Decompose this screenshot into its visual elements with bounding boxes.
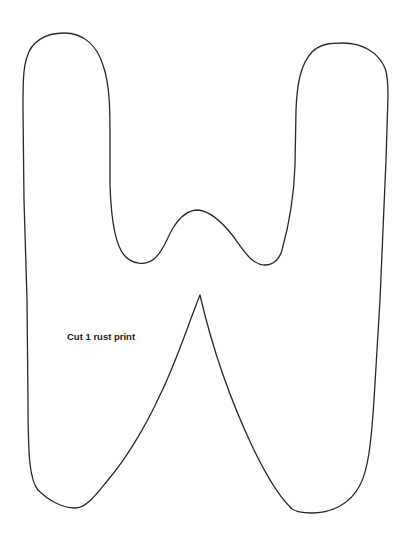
template-page: Cut 1 rust print	[0, 0, 407, 541]
cut-instruction-label: Cut 1 rust print	[67, 331, 135, 342]
letter-w-outline	[0, 0, 407, 541]
